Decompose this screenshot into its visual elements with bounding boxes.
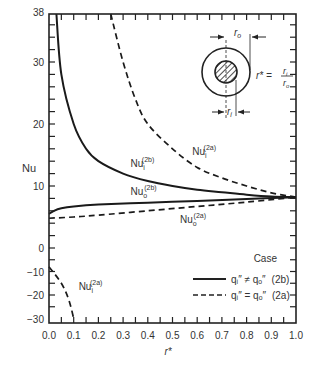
curves (49, 14, 296, 319)
chart-svg: 0.00.10.20.30.40.50.60.70.80.91.03830201… (0, 0, 316, 366)
x-axis-label: r* (164, 346, 172, 357)
curve-nu-i-2a-negative-branch- (49, 267, 74, 319)
curve-nu-o-2b- (49, 197, 296, 214)
legend-entry-2b: qᵢ″ ≠ qₒ″(2b) (231, 274, 289, 285)
x-tick-label: 0.7 (215, 330, 229, 341)
y-tick-label: 10 (33, 181, 45, 192)
x-tick-label: 1.0 (289, 330, 303, 341)
annulus-inset: ro ri r* = ri ro (202, 27, 293, 118)
nusselt-chart: 0.00.10.20.30.40.50.60.70.80.91.03830201… (0, 0, 316, 366)
curve-nu-o-2a- (49, 197, 296, 218)
y-tick-label: −30 (27, 314, 44, 325)
curve-label: Nui(2a) (79, 279, 103, 294)
x-tick-label: 0.2 (91, 330, 105, 341)
x-tick-label: 0.8 (240, 330, 254, 341)
legend-entry-2a: qᵢ″ = qₒ″(2a) (231, 290, 290, 301)
curve-label: Nui(2b) (131, 156, 155, 171)
svg-text:ri: ri (283, 66, 288, 77)
curve-nu-i-2a- (111, 14, 296, 197)
svg-text:ri: ri (227, 106, 232, 118)
y-tick-label: 0 (38, 243, 44, 254)
svg-text:ro: ro (234, 27, 241, 39)
curve-label: Nuo(2a) (180, 212, 206, 227)
y-tick-label: 20 (33, 119, 45, 130)
curve-label: Nui(2a) (192, 144, 216, 159)
x-tick-label: 0.9 (264, 330, 278, 341)
x-tick-label: 0.5 (166, 330, 180, 341)
x-tick-label: 0.3 (116, 330, 130, 341)
y-tick-label: 30 (33, 57, 45, 68)
svg-text:ro: ro (283, 78, 290, 89)
rstar-formula-lhs: r* = (256, 70, 272, 81)
y-tick-label: 38 (33, 7, 45, 18)
y-axis-label: Nu (22, 162, 36, 174)
curve-nu-i-2b- (56, 14, 296, 197)
legend: Case qᵢ″ ≠ qₒ″(2b) qᵢ″ = qₒ″(2a) (193, 253, 290, 301)
curve-label: Nuo(2b) (131, 184, 157, 199)
x-tick-label: 0.4 (141, 330, 155, 341)
x-tick-label: 0.1 (67, 330, 81, 341)
legend-title: Case (254, 253, 278, 264)
x-tick-label: 0.6 (190, 330, 204, 341)
y-tick-label: −20 (27, 290, 44, 301)
y-tick-label: −10 (27, 267, 44, 278)
x-tick-label: 0.0 (42, 330, 56, 341)
